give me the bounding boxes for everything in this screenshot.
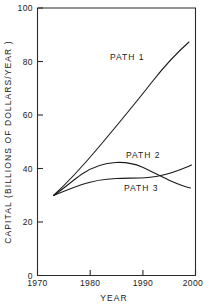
y-tick-label-80: 80	[23, 57, 33, 67]
y-tick-label-60: 60	[23, 110, 33, 120]
x-axis-title: YEAR	[100, 293, 128, 303]
y-tick-labels: 100 80 60 40 20 0	[18, 3, 33, 281]
line-chart-svg: 100 80 60 40 20 0 1970 1980 1990 2000 YE…	[0, 0, 216, 307]
series-label-path-3: PATH 3	[124, 183, 159, 193]
series-path-1	[54, 42, 190, 196]
x-axis-ticks	[38, 270, 196, 276]
y-tick-label-20: 20	[23, 217, 33, 227]
data-series-group	[54, 42, 192, 196]
x-tick-label-1980: 1980	[80, 278, 101, 288]
y-axis-title: CAPITAL (BILLIONS OF DOLLARS/YEAR )	[3, 40, 13, 243]
x-tick-label-2000: 2000	[183, 278, 204, 288]
x-tick-label-1990: 1990	[133, 278, 154, 288]
series-path-2	[54, 162, 191, 195]
series-label-path-2: PATH 2	[126, 150, 161, 160]
plot-frame	[38, 8, 197, 276]
chart-figure: 100 80 60 40 20 0 1970 1980 1990 2000 YE…	[0, 0, 216, 307]
y-tick-label-40: 40	[23, 164, 33, 174]
x-tick-label-1970: 1970	[27, 278, 48, 288]
y-axis-ticks	[38, 8, 44, 276]
series-label-path-1: PATH 1	[110, 52, 145, 62]
x-tick-labels: 1970 1980 1990 2000	[27, 278, 203, 288]
y-tick-label-100: 100	[18, 3, 33, 13]
